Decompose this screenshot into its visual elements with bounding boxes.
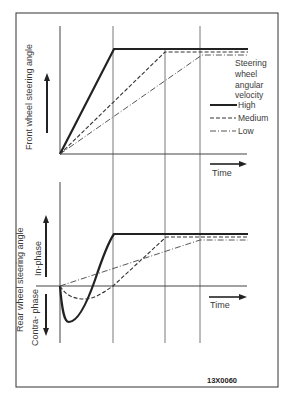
curve-high: [60, 49, 248, 154]
legend-title-3: angular: [235, 80, 264, 90]
legend-label-high: High: [238, 100, 256, 110]
bottom-graph: Rear wheel steering angle In-phase Contr…: [15, 182, 248, 346]
legend-label-low: Low: [238, 126, 254, 136]
legend-title-4: velocity: [235, 90, 264, 100]
curve-medium: [60, 237, 248, 299]
legend-label-medium: Medium: [238, 113, 268, 123]
figure-id: 13X0060: [207, 376, 237, 385]
bottom-ylabel: Rear wheel steering angle: [15, 227, 25, 332]
steering-diagram: Front wheel steering angle Time Steering…: [0, 0, 289, 397]
arrow-head-icon: [43, 328, 49, 336]
legend-title-2: wheel: [234, 69, 257, 79]
arrow-head-icon: [239, 294, 247, 300]
top-ylabel: Front wheel steering angle: [24, 44, 34, 150]
arrow-head-icon: [43, 215, 49, 223]
legend-title-1: Steering: [235, 58, 267, 68]
arrow-head-icon: [44, 73, 50, 81]
in-phase-label: In-phase: [33, 241, 43, 276]
bottom-xlabel: Time: [210, 300, 230, 310]
curve-low: [60, 240, 248, 286]
legend: Steering wheel angular velocity High Med…: [210, 58, 268, 136]
top-graph: Front wheel steering angle Time Steering…: [24, 26, 268, 182]
contra-phase-label: Contra- phase: [30, 289, 40, 346]
top-xlabel: Time: [212, 168, 232, 178]
arrow-head-icon: [239, 161, 247, 167]
curve-medium: [60, 52, 248, 154]
